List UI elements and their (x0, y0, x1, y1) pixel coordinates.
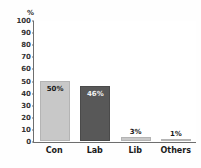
bar-con[interactable]: 50% (40, 81, 70, 141)
x-label-con: Con (34, 146, 74, 156)
y-tick-mark-50 (32, 81, 34, 82)
bar-slot-con: 50% (40, 21, 70, 141)
bar-others[interactable]: 1% (161, 139, 191, 141)
y-tick-mark-20 (32, 117, 34, 118)
y-tick-mark-100 (32, 21, 34, 22)
x-label-lab: Lab (75, 146, 115, 156)
bar-value-label-lab: 46% (81, 90, 109, 98)
bar-group: 50% 46% 3% 1% (35, 21, 196, 141)
bar-slot-lab: 46% (80, 21, 110, 141)
bar-slot-lib: 3% (121, 21, 151, 141)
y-tick-mark-90 (32, 33, 34, 34)
x-label-lib: Lib (115, 146, 155, 156)
y-tick-mark-70 (32, 57, 34, 58)
y-tick-mark-40 (32, 93, 34, 94)
bar-value-label-con: 50% (41, 85, 69, 93)
y-tick-mark-0 (32, 142, 34, 143)
bar-lab[interactable]: 46% (80, 86, 110, 141)
x-label-others: Others (156, 146, 196, 156)
plot-area: 100 90 80 70 60 50 40 30 20 10 0 (33, 21, 196, 143)
x-axis-labels: Con Lab Lib Others (34, 146, 196, 156)
y-tick-mark-80 (32, 45, 34, 46)
bar-slot-others: 1% (161, 21, 191, 141)
y-tick-mark-60 (32, 69, 34, 70)
y-tick-mark-10 (32, 129, 34, 130)
bar-value-label-others: 1% (162, 130, 190, 138)
bar-chart: % 100 90 80 70 60 50 40 30 20 10 0 (0, 0, 201, 168)
bar-lib[interactable]: 3% (121, 137, 151, 141)
bar-value-label-lib: 3% (122, 128, 150, 136)
y-tick-mark-30 (32, 105, 34, 106)
